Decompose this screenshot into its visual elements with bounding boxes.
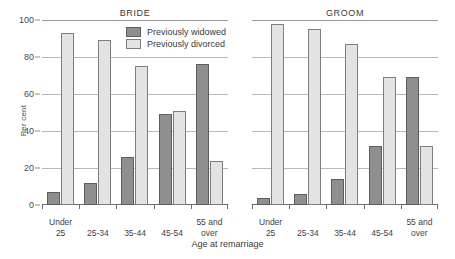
bar-widowed [196,64,209,205]
x-tick-mark [252,205,253,209]
plot-area-bride: Under2525-3435-4445-5455 andover [42,20,228,205]
x-axis-title: Age at remarriage [0,239,455,249]
x-tick-mark [191,205,192,209]
bar-group [252,20,289,205]
y-tick-mark [35,205,40,206]
y-tick-label: 80 [8,52,34,62]
chart-figure: Per cent 020406080100 Previously widowed… [0,0,455,259]
bar-widowed [406,77,419,205]
bar-widowed [369,146,382,205]
y-tick-mark [35,168,40,169]
bar-divorced [345,44,358,205]
panel-title-groom: GROOM [252,8,438,18]
y-tick-mark [35,20,40,21]
plot-area-groom: Under2525-3435-4445-5455 andover [252,20,438,205]
x-tick-mark [116,205,117,209]
x-tick-mark [364,205,365,209]
bar-widowed [331,179,344,205]
y-tick-mark [35,131,40,132]
y-tick-label: 60 [8,89,34,99]
bar-widowed [47,192,60,205]
bar-divorced [173,111,186,205]
bar-divorced [420,146,433,205]
bar-divorced [271,24,284,205]
panel-groom: GROOM Under2525-3435-4445-5455 andover [252,20,438,205]
bar-divorced [135,66,148,205]
bar-group [154,20,191,205]
bar-widowed [121,157,134,205]
x-tick-label: 55 andover [390,217,448,239]
bar-group [79,20,116,205]
bar-group [401,20,438,205]
x-tick-mark [401,205,402,209]
x-tick-mark [326,205,327,209]
x-tick-mark [437,205,438,209]
x-tick-mark [42,205,43,209]
bar-group [191,20,228,205]
y-tick-label: 0 [8,200,34,210]
bar-divorced [383,77,396,205]
bar-widowed [294,194,307,205]
bar-widowed [257,198,270,205]
bar-divorced [61,33,74,205]
bar-group [326,20,363,205]
y-tick-mark [35,94,40,95]
x-tick-mark [79,205,80,209]
bar-divorced [308,29,321,205]
bar-widowed [84,183,97,205]
bar-divorced [98,40,111,205]
bar-group [42,20,79,205]
bar-group [289,20,326,205]
bar-divorced [210,161,223,205]
y-tick-label: 100 [8,15,34,25]
x-tick-mark [289,205,290,209]
panel-title-bride: BRIDE [42,8,228,18]
x-tick-mark [154,205,155,209]
bar-group [364,20,401,205]
y-tick-label: 40 [8,126,34,136]
bar-widowed [159,114,172,205]
panel-bride: BRIDE Under2525-3435-4445-5455 andover [42,20,228,205]
x-tick-mark [227,205,228,209]
y-tick-label: 20 [8,163,34,173]
x-tick-label: 55 andover [180,217,238,239]
bar-group [116,20,153,205]
y-tick-mark [35,57,40,58]
